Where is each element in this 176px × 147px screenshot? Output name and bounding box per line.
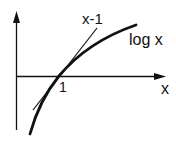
diagram-canvas: x-1 log x x 1 bbox=[0, 0, 176, 147]
x-axis-arrow-icon bbox=[154, 73, 166, 80]
label-x-minus-1: x-1 bbox=[82, 10, 103, 27]
curve-log-x bbox=[30, 25, 136, 134]
label-log-x: log x bbox=[129, 31, 163, 48]
label-tick-1: 1 bbox=[59, 79, 67, 95]
y-axis-arrow-icon bbox=[13, 11, 20, 23]
label-x-axis: x bbox=[161, 80, 169, 97]
